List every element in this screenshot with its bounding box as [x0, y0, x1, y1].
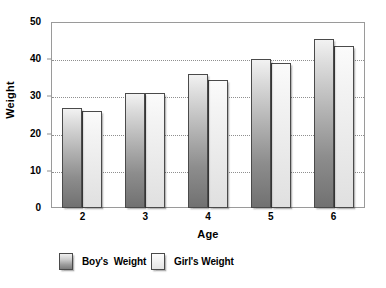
legend-item-boy[interactable]: Boy's Weight: [59, 251, 146, 271]
y-tick-label-0: 0: [36, 203, 41, 213]
chart-legend: Boy's WeightGirl's Weight: [51, 251, 351, 275]
x-axis-title: Age: [51, 228, 365, 240]
legend-label-boy: Boy's Weight: [82, 256, 146, 267]
y-tick-label-20: 20: [30, 129, 41, 139]
y-tick-label-50: 50: [30, 17, 41, 27]
bar-girl-age-2: [82, 111, 102, 208]
y-axis-title: Weight: [4, 70, 16, 130]
y-tick-label-40: 40: [30, 54, 41, 64]
bar-boy-age-2: [62, 108, 82, 208]
bars-layer: [51, 22, 365, 208]
x-tick-label-4: 4: [205, 211, 210, 222]
bar-girl-age-4: [208, 80, 228, 208]
bar-girl-age-5: [271, 63, 291, 208]
bar-boy-age-4: [188, 74, 208, 208]
bar-group-age-5: [251, 22, 291, 208]
bar-group-age-3: [125, 22, 165, 208]
y-tick-label-30: 30: [30, 91, 41, 101]
bar-boy-age-3: [125, 93, 145, 208]
bar-group-age-2: [62, 22, 102, 208]
bar-boy-age-6: [314, 39, 334, 208]
legend-label-girl: Girl's Weight: [174, 256, 234, 267]
x-tick-label-5: 5: [268, 211, 273, 222]
bar-group-age-4: [188, 22, 228, 208]
boy-weight-swatch: [59, 253, 73, 270]
y-tick-label-10: 10: [30, 166, 41, 176]
x-tick-label-3: 3: [142, 211, 147, 222]
bar-group-age-6: [314, 22, 354, 208]
bar-girl-age-6: [334, 46, 354, 208]
legend-item-girl[interactable]: Girl's Weight: [151, 251, 234, 271]
bar-girl-age-3: [145, 93, 165, 208]
girl-weight-swatch: [151, 253, 165, 270]
bar-chart: 01020304050 Weight 23456 Age Boy's Weigh…: [0, 0, 386, 288]
x-axis: 23456: [51, 211, 365, 229]
x-tick-label-2: 2: [80, 211, 85, 222]
bar-boy-age-5: [251, 59, 271, 208]
x-tick-label-6: 6: [331, 211, 336, 222]
